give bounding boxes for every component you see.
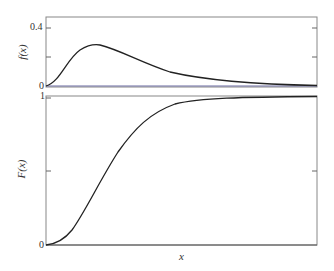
cdf-curve: [46, 97, 317, 246]
top-panel-frame: [46, 17, 317, 87]
top-tick-label-high: 0.4: [30, 21, 43, 32]
bottom-tick-label-one: 1: [40, 90, 45, 101]
bottom-panel-frame: [46, 96, 317, 245]
x-axis-label: x: [179, 250, 184, 262]
bottom-y-axis-label: F(x): [15, 160, 27, 179]
chart-canvas: [0, 0, 334, 271]
pdf-curve: [46, 45, 317, 86]
top-y-axis-label: f(x): [16, 44, 28, 59]
bottom-tick-label-zero: 0: [39, 239, 44, 250]
